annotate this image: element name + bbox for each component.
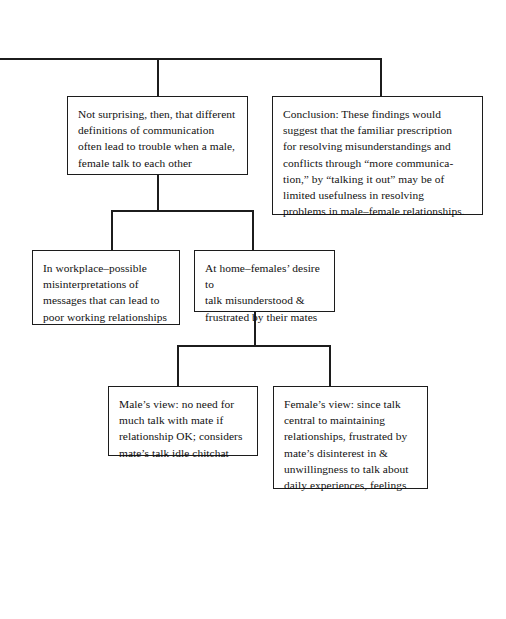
node-female-view: Female’s view: since talk central to mai… <box>273 386 428 489</box>
node-conclusion: Conclusion: These findings would suggest… <box>272 96 483 215</box>
node-workplace-text: In workplace–possible misinterpretations… <box>43 260 170 325</box>
connector-row2-spine <box>111 210 253 212</box>
connector-to-male-view <box>177 345 179 387</box>
connector-top-to-conclusion <box>380 58 382 96</box>
node-male-view: Male’s view: no need for much talk with … <box>108 386 258 456</box>
node-home-text: At home–females’ desire to talk misunder… <box>205 260 325 325</box>
connector-top-to-premise <box>157 58 159 96</box>
connector-premise-down <box>157 175 159 211</box>
node-workplace: In workplace–possible misinterpretations… <box>32 250 180 325</box>
node-conclusion-text: Conclusion: These findings would suggest… <box>283 106 473 219</box>
node-premise: Not surprising, then, that different def… <box>67 96 248 175</box>
connector-to-workplace <box>111 210 113 251</box>
diagram-canvas: Not surprising, then, that different def… <box>0 0 506 619</box>
node-premise-text: Not surprising, then, that different def… <box>78 106 238 171</box>
connector-to-home <box>252 210 254 251</box>
node-home: At home–females’ desire to talk misunder… <box>194 250 335 312</box>
connector-row3-spine <box>177 345 331 347</box>
connector-to-female-view <box>329 345 331 387</box>
node-female-view-text: Female’s view: since talk central to mai… <box>284 396 418 493</box>
connector-top-spine <box>0 58 382 60</box>
node-male-view-text: Male’s view: no need for much talk with … <box>119 396 248 461</box>
